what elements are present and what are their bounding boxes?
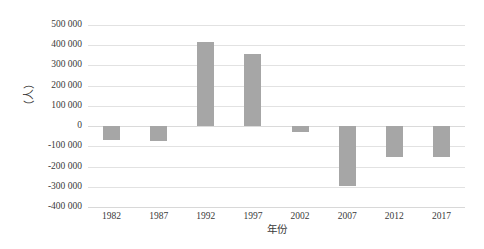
bar — [103, 126, 120, 140]
bar — [150, 126, 167, 141]
y-axis-tick-labels: 500 000400 000300 000200 000100 0000-100… — [0, 0, 88, 249]
bar — [197, 42, 214, 126]
y-axis-tick-label: -200 000 — [2, 161, 82, 171]
y-axis-tick-label: 300 000 — [2, 59, 82, 69]
y-axis-tick-label: 500 000 — [2, 19, 82, 29]
x-axis-tick-label: 1987 — [135, 210, 182, 222]
x-axis-tick-label: 2007 — [324, 210, 371, 222]
y-axis-tick-label: 100 000 — [2, 100, 82, 110]
bar — [339, 126, 356, 186]
y-axis-tick-label: 400 000 — [2, 39, 82, 49]
x-axis-tick-label: 2012 — [371, 210, 418, 222]
x-axis-title: 年份 — [88, 224, 465, 236]
y-axis-tick-label: -400 000 — [2, 201, 82, 211]
y-axis-tick-label: 0 — [2, 120, 82, 130]
x-axis-tick-label: 1982 — [88, 210, 135, 222]
x-axis-tick-label: 1997 — [229, 210, 276, 222]
bar — [292, 126, 309, 132]
bar-chart: （人） 500 000400 000300 000200 000100 0000… — [0, 0, 484, 249]
y-axis-tick-label: -300 000 — [2, 181, 82, 191]
bars-group — [88, 25, 465, 207]
x-axis-tick-label: 2002 — [277, 210, 324, 222]
bar — [386, 126, 403, 157]
y-axis-tick-label: 200 000 — [2, 80, 82, 90]
bar — [244, 54, 261, 126]
x-axis-tick-label: 2017 — [418, 210, 465, 222]
bar — [433, 126, 450, 157]
gridline — [88, 207, 465, 208]
x-axis-tick-label: 1992 — [182, 210, 229, 222]
y-axis-tick-label: -100 000 — [2, 140, 82, 150]
plot-area — [88, 25, 465, 207]
